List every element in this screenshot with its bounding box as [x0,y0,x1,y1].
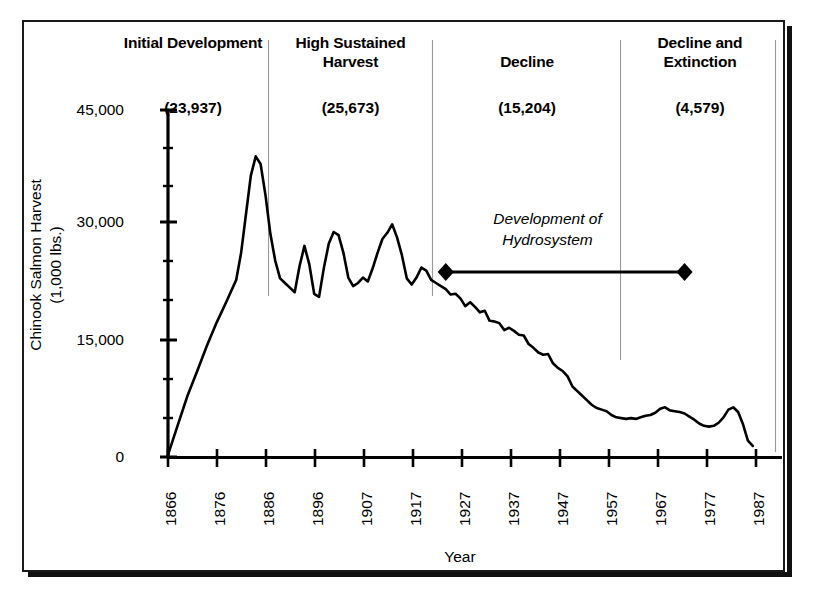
section-label-line1: Initial [124,34,163,51]
y-axis-title-line1: Chinook Salmon Harvest [26,100,46,430]
annotation-line2: Hydrosystem [470,229,625,250]
frame-shadow-bottom [28,572,792,577]
x-axis-tick-label-1937: 1937 [505,492,523,526]
x-axis-tick-label-1987: 1987 [750,492,768,526]
y-axis-title: Chinook Salmon Harvest (1,000 lbs.) [26,100,66,430]
x-axis-tick-label-1917: 1917 [407,492,425,526]
annotation-line1: Development of [470,208,625,229]
section-label-line1: High Sustained [295,34,405,51]
x-axis-tick-label-1876: 1876 [211,492,229,526]
chart-figure: Initial Development (23,937) High Sustai… [0,0,813,598]
section-label-line1: Decline [500,53,554,70]
x-axis-tick-label-1907: 1907 [358,492,376,526]
section-header-decline-and-extinction: Decline and Extinction [625,33,775,71]
section-label-line2: Harvest [323,53,378,70]
x-axis-tick-label-1866: 1866 [162,492,180,526]
hydrosystem-annotation-text: Development of Hydrosystem [470,208,625,250]
x-axis-tick-label-1886: 1886 [260,492,278,526]
section-label-line1: Decline and [658,34,743,51]
y-axis-tick-label-0: 0 [36,448,124,466]
y-axis-title-line2: (1,000 lbs.) [46,100,66,430]
section-header-initial-development: Initial Development [118,33,268,52]
section-label-line2: Extinction [664,53,737,70]
section-value-decline-and-extinction: (4,579) [625,98,775,117]
x-axis-tick-label-1927: 1927 [456,492,474,526]
x-axis-tick-label-1967: 1967 [652,492,670,526]
x-axis-tick-label-1957: 1957 [603,492,621,526]
section-header-high-sustained-harvest: High Sustained Harvest [273,33,428,71]
x-axis-title: Year [360,548,560,566]
x-axis-tick-label-1977: 1977 [701,492,719,526]
section-label-line2: Development [167,34,262,51]
section-value-initial-development: (23,937) [118,98,268,117]
section-value-high-sustained-harvest: (25,673) [273,98,428,117]
section-value-decline: (15,204) [437,98,617,117]
x-axis-tick-label-1896: 1896 [309,492,327,526]
x-axis-tick-label-1947: 1947 [554,492,572,526]
frame-shadow-right [787,26,792,577]
section-header-decline: Decline [437,52,617,71]
